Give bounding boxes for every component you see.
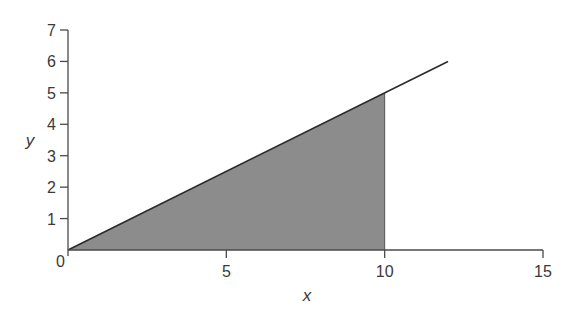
x-axis: 51015 bbox=[68, 250, 552, 280]
y-axis: 01234567 bbox=[47, 22, 68, 270]
plot-area bbox=[68, 61, 448, 250]
y-tick-label: 1 bbox=[47, 211, 56, 228]
y-tick-label: 6 bbox=[47, 53, 56, 70]
y-tick-label: 7 bbox=[47, 22, 56, 39]
y-tick-label: 2 bbox=[47, 179, 56, 196]
x-tick-label: 15 bbox=[534, 263, 552, 280]
y-tick-label: 4 bbox=[47, 116, 56, 133]
y-tick-label: 0 bbox=[56, 253, 65, 270]
chart-canvas: 01234567 51015 x y bbox=[0, 0, 579, 316]
y-tick-label: 3 bbox=[47, 148, 56, 165]
x-axis-label: x bbox=[302, 286, 312, 305]
x-tick-label: 10 bbox=[376, 263, 394, 280]
x-tick-label: 5 bbox=[222, 263, 231, 280]
y-tick-label: 5 bbox=[47, 85, 56, 102]
y-axis-label: y bbox=[25, 131, 36, 150]
